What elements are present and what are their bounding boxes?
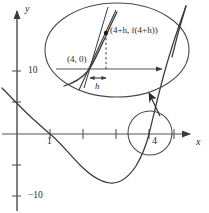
inset-h-label: h <box>95 82 100 91</box>
callout-circle-label-4: 4 <box>152 136 157 146</box>
y-axis-label: y <box>25 4 29 14</box>
inset-point-label: (4, 0) <box>67 55 87 64</box>
x-tick-label-1: 1 <box>47 137 52 147</box>
x-axis-label: x <box>196 137 200 147</box>
secant-point-marker <box>104 31 108 35</box>
y-tick-label-10: 10 <box>28 66 38 76</box>
calculus-figure: y x 10 −10 1 4 (4, 0) (4+h, f(4+h)) h <box>0 0 209 213</box>
y-tick-label-neg10: −10 <box>28 191 43 201</box>
magnifier-ellipse <box>45 3 189 97</box>
inset-secant-point-label: (4+h, f(4+h)) <box>110 26 158 35</box>
callout-circle-small <box>128 111 172 155</box>
figure-canvas <box>0 0 209 213</box>
